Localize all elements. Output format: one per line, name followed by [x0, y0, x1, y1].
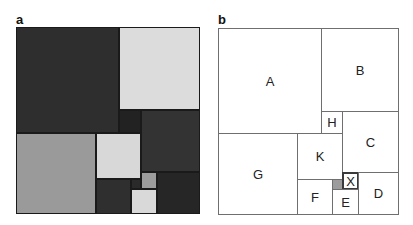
tile-label: B: [356, 63, 365, 78]
panel-label-a: a: [16, 13, 23, 26]
tile-label: G: [253, 167, 263, 182]
tile-b-k: K: [297, 133, 343, 180]
tile-a-h: [119, 110, 141, 133]
tile-a-f: [96, 179, 131, 214]
tile-a-g: [16, 133, 96, 214]
tile-b-b: B: [321, 28, 399, 112]
tile-b-a: A: [218, 28, 322, 134]
tile-label: A: [266, 74, 275, 89]
tile-b-g: G: [218, 133, 298, 215]
tile-b-h: H: [321, 111, 343, 134]
tile-a-s: [131, 179, 141, 189]
tile-a-a: [16, 27, 119, 133]
tile-label: H: [327, 115, 336, 130]
tile-label: D: [374, 186, 383, 201]
tile-a-d: [157, 172, 200, 214]
tile-a-x: [141, 172, 157, 189]
tile-label: X: [346, 174, 355, 189]
tile-a-b: [119, 27, 200, 110]
panel-label-b: b: [218, 13, 226, 26]
tile-label: K: [316, 149, 325, 164]
tile-b-e: E: [332, 189, 359, 215]
tile-label: F: [311, 190, 319, 205]
tile-b-f: F: [297, 179, 333, 215]
tile-a-e: [131, 189, 157, 214]
tile-b-d: D: [358, 172, 399, 215]
tile-b-x: X: [342, 172, 359, 190]
tile-b-c: C: [342, 111, 399, 173]
tile-a-k: [96, 133, 141, 179]
tile-label: C: [366, 135, 375, 150]
tile-a-c: [141, 110, 200, 172]
tile-label: E: [341, 195, 350, 210]
